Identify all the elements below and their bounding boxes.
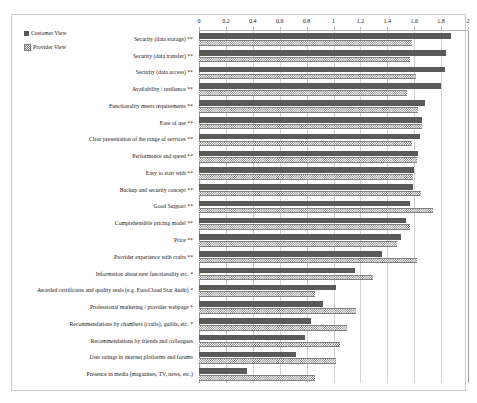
x-axis-tick-mark xyxy=(387,27,388,30)
chart-bar-group xyxy=(199,182,468,199)
bar-provider-view xyxy=(199,208,433,214)
category-axis-labels: Security (data storage) **Security (data… xyxy=(14,31,196,383)
bar-customer-view xyxy=(199,285,336,291)
bar-customer-view xyxy=(199,67,445,73)
chart-bar-group xyxy=(199,65,468,82)
category-label: Performance and speed ** xyxy=(132,148,193,165)
chart-bar-group xyxy=(199,148,468,165)
bar-provider-view xyxy=(199,74,416,80)
bar-provider-view xyxy=(199,258,417,264)
x-axis-tick-label: 0.6 xyxy=(276,18,284,25)
x-axis-tick-label: 0 xyxy=(198,18,201,25)
category-label: Awarded certificates and quality seals (… xyxy=(37,282,193,299)
x-axis-tick-label: 0.4 xyxy=(249,18,257,25)
category-label: Price ** xyxy=(174,232,193,249)
bar-provider-view xyxy=(199,90,407,96)
chart-bar-group xyxy=(199,266,468,283)
chart-bar-group xyxy=(199,349,468,366)
chart-bar-group xyxy=(199,333,468,350)
x-axis-tick-label: 1 xyxy=(332,18,335,25)
category-label: Security (data transfer) ** xyxy=(133,48,193,65)
bar-customer-view xyxy=(199,218,406,224)
bar-customer-view xyxy=(199,184,413,190)
chart-bar-group xyxy=(199,48,468,65)
x-axis-tick-mark xyxy=(280,27,281,30)
bar-customer-view xyxy=(199,201,410,207)
chart-bar-group xyxy=(199,165,468,182)
x-axis-tick-label: 0.8 xyxy=(303,18,311,25)
bar-provider-view xyxy=(199,191,421,197)
x-axis-tick-mark xyxy=(468,27,469,30)
x-axis-tick-label: 1.8 xyxy=(437,18,445,25)
bar-customer-view xyxy=(199,268,355,274)
bar-provider-view xyxy=(199,107,418,113)
category-label: Provider experience with crafts ** xyxy=(114,249,193,266)
bar-customer-view xyxy=(199,33,451,39)
x-axis-tick-label: 1.2 xyxy=(357,18,365,25)
bar-customer-view xyxy=(199,50,446,56)
category-label: Recommendations by chambers (crafts), gu… xyxy=(70,316,193,333)
bar-provider-view xyxy=(199,57,410,63)
category-label: Information about new functionality etc.… xyxy=(96,266,193,283)
chart-bar-group xyxy=(199,299,468,316)
bar-customer-view xyxy=(199,335,305,341)
bar-provider-view xyxy=(199,124,422,130)
gridline xyxy=(468,31,469,383)
chart-bar-group xyxy=(199,249,468,266)
bar-provider-view xyxy=(199,375,315,381)
category-label: Backup and security concept ** xyxy=(120,182,193,199)
bar-provider-view xyxy=(199,241,397,247)
chart-bar-group xyxy=(199,282,468,299)
chart-bar-group xyxy=(199,215,468,232)
bar-customer-view xyxy=(199,301,323,307)
category-label: User ratings in internet platforms and f… xyxy=(89,349,193,366)
x-axis-tick-label: 2 xyxy=(467,18,470,25)
bar-customer-view xyxy=(199,352,296,358)
x-axis-tick-mark xyxy=(226,27,227,30)
chart-bar-group xyxy=(199,199,468,216)
category-label: Availability / resilience ** xyxy=(132,81,193,98)
chart-bar-group xyxy=(199,31,468,48)
bar-customer-view xyxy=(199,251,382,257)
bar-provider-view xyxy=(199,358,336,364)
bar-provider-view xyxy=(199,224,410,230)
bar-customer-view xyxy=(199,167,414,173)
bar-customer-view xyxy=(199,100,425,106)
chart-figure: Customer ViewProvider View 00.20.40.60.8… xyxy=(0,0,477,403)
chart-bar-group xyxy=(199,115,468,132)
bar-provider-view xyxy=(199,174,413,180)
x-axis-tick-label: 1.6 xyxy=(410,18,418,25)
bar-customer-view xyxy=(199,318,311,324)
bar-customer-view xyxy=(199,83,441,89)
bar-provider-view xyxy=(199,275,373,281)
category-label: Recommendations by friends and colleague… xyxy=(90,333,193,350)
x-axis-tick-label: 1.4 xyxy=(384,18,392,25)
x-axis-tick-mark xyxy=(307,27,308,30)
bar-provider-view xyxy=(199,325,347,331)
chart-bars xyxy=(199,31,468,383)
category-label: Easy to start with ** xyxy=(146,165,193,182)
bar-customer-view xyxy=(199,151,418,157)
category-label: Security (data storage) ** xyxy=(134,31,193,48)
chart-bar-group xyxy=(199,366,468,383)
chart-bar-group xyxy=(199,81,468,98)
category-label: Comprehensible pricing model ** xyxy=(115,215,193,232)
x-axis-tick-mark xyxy=(414,27,415,30)
category-label: Good Support ** xyxy=(154,199,193,216)
x-axis-tick-mark xyxy=(441,27,442,30)
chart-bar-group xyxy=(199,132,468,149)
bar-customer-view xyxy=(199,234,401,240)
bar-provider-view xyxy=(199,157,417,163)
category-label: Clear presentation of the range of servi… xyxy=(89,132,193,149)
x-axis-tick-mark xyxy=(199,27,200,30)
bar-provider-view xyxy=(199,40,412,46)
x-axis-tick-mark xyxy=(334,27,335,30)
chart-bar-group xyxy=(199,98,468,115)
category-label: Professional marketing / provider webpag… xyxy=(90,299,193,316)
bar-provider-view xyxy=(199,291,315,297)
bar-customer-view xyxy=(199,368,247,374)
category-label: Functionality meets requirements ** xyxy=(109,98,193,115)
category-label: Ease of use ** xyxy=(160,115,193,132)
chart-bar-group xyxy=(199,232,468,249)
x-axis-tick-mark xyxy=(253,27,254,30)
